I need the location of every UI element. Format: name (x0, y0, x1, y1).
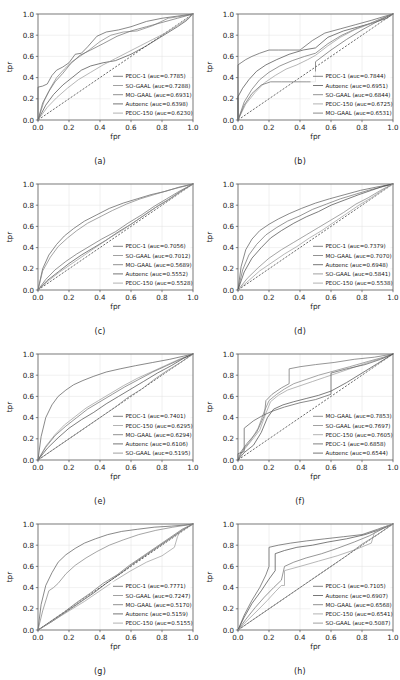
legend-entry: PEOC-1 (auc=0.7771) (126, 583, 186, 589)
svg-text:0.2: 0.2 (23, 434, 34, 443)
svg-text:0.4: 0.4 (294, 633, 306, 642)
roc-figure-grid: 0.00.00.20.20.40.40.60.60.80.81.01.0fprt… (0, 0, 400, 680)
panel-caption-c: (c) (0, 327, 200, 336)
roc-panel: 0.00.00.20.20.40.40.60.60.80.81.01.0fprt… (0, 170, 200, 340)
legend-d: PEOC-1 (auc=0.7379)MO-GAAL (auc=0.7070)A… (311, 242, 393, 288)
legend-entry: PEOC-150 (auc=0.5155) (126, 620, 193, 626)
svg-text:1.0: 1.0 (187, 123, 199, 132)
svg-text:0.2: 0.2 (223, 434, 234, 443)
panel-caption-d: (d) (200, 327, 400, 336)
legend-entry: SO-GAAL (auc=0.5841) (326, 271, 391, 277)
legend-entry: MO-GAAL (auc=0.7853) (326, 413, 392, 419)
legend-entry: SO-GAAL (auc=0.5195) (126, 450, 191, 456)
roc-plot-e: 0.00.00.20.20.40.40.60.60.80.81.01.0fprt… (0, 342, 200, 488)
legend-b: PEOC-1 (auc=0.7844)Autoenc (auc=0.6951)S… (311, 72, 393, 118)
legend-entry: PEOC-150 (auc=0.6725) (326, 101, 393, 107)
svg-text:0.6: 0.6 (325, 293, 337, 302)
svg-text:fpr: fpr (110, 132, 121, 141)
svg-text:0.0: 0.0 (232, 633, 244, 642)
svg-text:0.6: 0.6 (223, 222, 235, 231)
legend-entry: PEOC-1 (auc=0.7105) (326, 583, 386, 589)
svg-text:0.0: 0.0 (232, 293, 244, 302)
svg-text:0.8: 0.8 (223, 31, 235, 40)
svg-text:0.8: 0.8 (156, 633, 168, 642)
svg-text:fpr: fpr (310, 132, 321, 141)
svg-text:0.2: 0.2 (63, 123, 74, 132)
svg-text:tpr: tpr (5, 401, 14, 413)
svg-text:0.4: 0.4 (294, 123, 306, 132)
roc-plot-g: 0.00.00.20.20.40.40.60.60.80.81.01.0fprt… (0, 512, 200, 658)
svg-text:0.0: 0.0 (32, 123, 44, 132)
svg-text:0.6: 0.6 (325, 123, 337, 132)
svg-text:0.2: 0.2 (223, 94, 234, 103)
svg-text:1.0: 1.0 (387, 123, 399, 132)
roc-panel: 0.00.00.20.20.40.40.60.60.80.81.01.0fprt… (200, 170, 400, 340)
svg-text:0.4: 0.4 (23, 583, 35, 592)
svg-text:fpr: fpr (110, 302, 121, 311)
svg-text:1.0: 1.0 (223, 10, 235, 19)
svg-text:0.0: 0.0 (32, 633, 44, 642)
svg-text:0.2: 0.2 (263, 463, 274, 472)
svg-text:tpr: tpr (205, 401, 214, 413)
svg-text:0.2: 0.2 (63, 293, 74, 302)
svg-text:0.6: 0.6 (23, 52, 35, 61)
svg-text:1.0: 1.0 (23, 10, 35, 19)
svg-text:0.4: 0.4 (23, 413, 35, 422)
svg-text:0.0: 0.0 (32, 293, 44, 302)
svg-text:tpr: tpr (5, 231, 14, 243)
legend-entry: MO-GAAL (auc=0.7070) (326, 253, 392, 259)
roc-panel: 0.00.00.20.20.40.40.60.60.80.81.01.0fprt… (200, 510, 400, 680)
svg-text:0.2: 0.2 (23, 604, 34, 613)
svg-text:0.8: 0.8 (223, 371, 235, 380)
svg-text:0.4: 0.4 (94, 633, 106, 642)
svg-text:0.6: 0.6 (223, 52, 235, 61)
legend-entry: MO-GAAL (auc=0.5170) (126, 602, 192, 608)
roc-chart-c: 0.00.00.20.20.40.40.60.60.80.81.01.0fprt… (0, 172, 200, 318)
legend-entry: SO-GAAL (auc=0.7012) (126, 253, 191, 259)
legend-entry: PEOC-1 (auc=0.7056) (126, 243, 186, 249)
svg-text:0.0: 0.0 (223, 626, 235, 635)
svg-text:tpr: tpr (205, 571, 214, 583)
svg-text:1.0: 1.0 (387, 293, 399, 302)
svg-text:0.4: 0.4 (94, 123, 106, 132)
svg-text:1.0: 1.0 (187, 463, 199, 472)
roc-chart-f: 0.00.00.20.20.40.40.60.60.80.81.01.0fprt… (200, 342, 400, 488)
legend-entry: PEOC-1 (auc=0.6858) (326, 441, 386, 447)
legend-entry: PEOC-1 (auc=0.7844) (326, 73, 386, 79)
legend-h: PEOC-1 (auc=0.7105)Autoenc (auc=0.6907)M… (311, 582, 393, 628)
svg-text:0.4: 0.4 (23, 73, 35, 82)
svg-text:0.0: 0.0 (23, 116, 35, 125)
roc-panel: 0.00.00.20.20.40.40.60.60.80.81.01.0fprt… (0, 510, 200, 680)
svg-text:1.0: 1.0 (23, 180, 35, 189)
svg-text:0.8: 0.8 (23, 541, 35, 550)
svg-text:0.6: 0.6 (125, 123, 137, 132)
svg-text:0.8: 0.8 (23, 371, 35, 380)
svg-text:0.0: 0.0 (223, 286, 235, 295)
roc-plot-a: 0.00.00.20.20.40.40.60.60.80.81.01.0fprt… (0, 2, 200, 148)
roc-plot-b: 0.00.00.20.20.40.40.60.60.80.81.01.0fprt… (200, 2, 400, 148)
legend-entry: SO-GAAL (auc=0.6844) (326, 92, 391, 98)
svg-text:0.0: 0.0 (223, 116, 235, 125)
legend-entry: Autoenc (auc=0.6951) (326, 83, 388, 89)
svg-text:0.8: 0.8 (356, 293, 368, 302)
roc-panel: 0.00.00.20.20.40.40.60.60.80.81.01.0fprt… (200, 0, 400, 170)
svg-text:0.8: 0.8 (156, 463, 168, 472)
legend-entry: Autoenc (auc=0.5552) (126, 271, 188, 277)
roc-plot-c: 0.00.00.20.20.40.40.60.60.80.81.01.0fprt… (0, 172, 200, 318)
svg-text:0.0: 0.0 (232, 463, 244, 472)
svg-text:0.0: 0.0 (23, 626, 35, 635)
legend-e: PEOC-1 (auc=0.7401)PEOC-150 (auc=0.6295)… (111, 412, 193, 458)
panel-caption-f: (f) (200, 497, 400, 506)
roc-panel: 0.00.00.20.20.40.40.60.60.80.81.01.0fprt… (200, 340, 400, 510)
legend-entry: Autoenc (auc=0.6907) (326, 593, 388, 599)
legend-entry: Autoenc (auc=0.5159) (126, 611, 188, 617)
svg-text:tpr: tpr (5, 61, 14, 73)
legend-entry: SO-GAAL (auc=0.7247) (126, 593, 191, 599)
roc-plot-f: 0.00.00.20.20.40.40.60.60.80.81.01.0fprt… (200, 342, 400, 488)
legend-entry: MO-GAAL (auc=0.6568) (326, 602, 392, 608)
legend-entry: PEOC-150 (auc=0.6541) (326, 611, 393, 617)
svg-text:1.0: 1.0 (223, 520, 235, 529)
roc-chart-b: 0.00.00.20.20.40.40.60.60.80.81.01.0fprt… (200, 2, 400, 148)
roc-panel: 0.00.00.20.20.40.40.60.60.80.81.01.0fprt… (0, 340, 200, 510)
svg-text:0.4: 0.4 (223, 73, 235, 82)
